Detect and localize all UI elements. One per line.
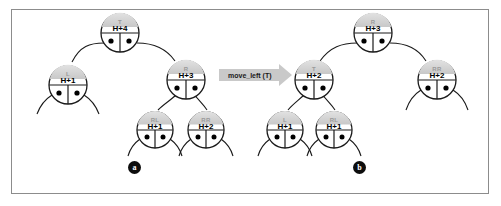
tree-graphics (0, 0, 501, 206)
avl-rotation-figure: T H+4 L H+1 R H+3 RL H+1 RR H+2 move_lef… (0, 0, 501, 206)
node-a-RR (179, 111, 233, 156)
node-b-L (258, 111, 312, 156)
node-a-RL (128, 111, 182, 156)
node-a-R (167, 60, 205, 99)
node-b-R (354, 13, 392, 52)
node-a-L (37, 65, 99, 114)
node-b-RR (406, 60, 468, 110)
node-b-T (295, 60, 333, 99)
caption-marker-a: a (128, 161, 141, 174)
caption-marker-b: b (353, 161, 366, 174)
node-a-T (101, 13, 139, 52)
move-left-label: move_left (T) (228, 72, 272, 79)
node-b-RL (307, 111, 361, 156)
